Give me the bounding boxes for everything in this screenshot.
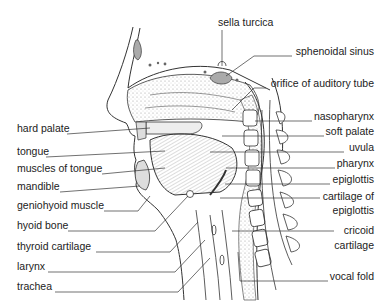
label-orifice-of-auditory-tube: orifice of auditory tube [271, 77, 374, 89]
label-tongue: tongue [17, 145, 49, 157]
label-epiglottis: epiglottis [333, 173, 374, 185]
label-hard-palate: hard palate [17, 122, 70, 134]
label-hyoid-bone: hyoid bone [17, 219, 68, 231]
label-sphenoidal-sinus: sphenoidal sinus [296, 45, 374, 57]
label-pharynx: pharynx [337, 157, 374, 169]
label-cricoid-cartilage-line1: cricoid [344, 224, 374, 236]
label-vocal-fold: vocal fold [330, 270, 374, 282]
label-uvula: uvula [349, 141, 374, 153]
label-mandible: mandible [17, 180, 60, 192]
label-soft-palate: soft palate [326, 125, 374, 137]
label-cartilage-of-epiglottis-line1: cartilage of [323, 190, 374, 202]
label-geniohyoid-muscle: geniohyoid muscle [17, 199, 104, 211]
label-cricoid-cartilage-line2: cartilage [334, 239, 374, 251]
label-cartilage-of-epiglottis-line2: epiglottis [333, 204, 374, 216]
nasal-cavity [127, 74, 259, 122]
hard-palate [146, 122, 202, 134]
label-trachea: trachea [17, 280, 52, 292]
label-muscles-of-tongue: muscles of tongue [17, 162, 102, 174]
tongue [150, 134, 237, 195]
label-larynx: larynx [17, 260, 45, 272]
label-nasopharynx: nasopharynx [314, 110, 374, 122]
label-sella-turcica: sella turcica [218, 16, 273, 28]
label-thyroid-cartilage: thyroid cartilage [17, 240, 91, 252]
mandible [135, 160, 149, 190]
